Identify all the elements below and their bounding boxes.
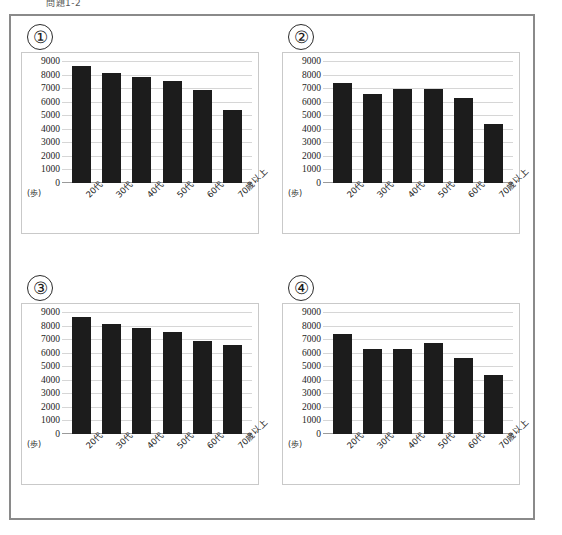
y-tick-label: 8000	[41, 70, 60, 80]
bar-60代[interactable]	[193, 341, 212, 434]
bar-series	[62, 61, 252, 183]
bar-40代[interactable]	[393, 89, 412, 183]
plot-wrapper: 9000800070006000500040003000200010000(歩)…	[22, 304, 258, 484]
x-label-slot: 30代	[363, 185, 382, 233]
y-tick-label: 4000	[41, 124, 60, 134]
y-axis-labels: 9000800070006000500040003000200010000	[24, 61, 60, 183]
y-tick-label: 2000	[302, 151, 321, 161]
y-tick-label: 7000	[41, 83, 60, 93]
y-tick-label: 2000	[41, 151, 60, 161]
x-label-slot: 50代	[424, 185, 443, 233]
y-tick-label: 2000	[41, 402, 60, 412]
plot-area	[62, 61, 252, 183]
bar-series	[62, 312, 252, 434]
y-tick-label: 4000	[41, 375, 60, 385]
bar-50代[interactable]	[424, 343, 443, 435]
plot-area	[323, 61, 513, 183]
bar-50代[interactable]	[163, 81, 182, 183]
bar-40代[interactable]	[132, 77, 151, 183]
x-label-slot: 20代	[72, 436, 91, 484]
y-tick-label: 8000	[302, 321, 321, 331]
x-label-slot: 20代	[333, 185, 352, 233]
bar-40代[interactable]	[132, 328, 151, 434]
bar-20代[interactable]	[72, 317, 91, 434]
x-label-slot: 30代	[102, 185, 121, 233]
x-axis-labels: 20代30代40代50代60代70歳以上	[323, 436, 513, 484]
x-label-slot: 70歳以上	[223, 185, 242, 233]
plot-area	[323, 312, 513, 434]
chart-grid: ①9000800070006000500040003000200010000(歩…	[11, 16, 533, 518]
bar-70歳以上[interactable]	[223, 110, 242, 183]
y-tick-label: 7000	[41, 334, 60, 344]
y-tick-label: 3000	[41, 388, 60, 398]
bar-60代[interactable]	[454, 358, 473, 434]
x-label-slot: 70歳以上	[223, 436, 242, 484]
bar-20代[interactable]	[333, 334, 352, 434]
chart-index-badge: ③	[27, 275, 53, 301]
y-axis-labels: 9000800070006000500040003000200010000	[24, 312, 60, 434]
bar-60代[interactable]	[193, 90, 212, 183]
bar-60代[interactable]	[454, 98, 473, 183]
bar-70歳以上[interactable]	[223, 345, 242, 434]
x-label-slot: 70歳以上	[484, 436, 503, 484]
bar-30代[interactable]	[102, 324, 121, 434]
x-axis-labels: 20代30代40代50代60代70歳以上	[62, 185, 252, 233]
y-axis-unit-label: (歩)	[27, 187, 41, 198]
x-label-slot: 40代	[393, 185, 412, 233]
bar-40代[interactable]	[393, 349, 412, 434]
plot-wrapper: 9000800070006000500040003000200010000(歩)…	[22, 53, 258, 233]
y-tick-label: 8000	[302, 70, 321, 80]
y-tick-label: 5000	[41, 110, 60, 120]
chart-panel-3[interactable]: 9000800070006000500040003000200010000(歩)…	[21, 303, 259, 485]
x-label-slot: 40代	[393, 436, 412, 484]
bar-50代[interactable]	[424, 89, 443, 183]
bar-50代[interactable]	[163, 332, 182, 434]
bar-30代[interactable]	[102, 73, 121, 183]
y-tick-label: 6000	[41, 97, 60, 107]
bar-30代[interactable]	[363, 94, 382, 183]
y-tick-label: 1000	[302, 164, 321, 174]
bar-30代[interactable]	[363, 349, 382, 434]
x-label-slot: 20代	[333, 436, 352, 484]
x-label-slot: 70歳以上	[484, 185, 503, 233]
chart-index-badge: ④	[288, 275, 314, 301]
bar-70歳以上[interactable]	[484, 124, 503, 183]
y-tick-label: 0	[316, 429, 321, 439]
chart-quadrant-4: ④9000800070006000500040003000200010000(歩…	[272, 267, 533, 518]
y-tick-label: 0	[55, 178, 60, 188]
y-tick-label: 9000	[41, 307, 60, 317]
plot-wrapper: 9000800070006000500040003000200010000(歩)…	[283, 304, 519, 484]
y-axis-unit-label: (歩)	[288, 187, 302, 198]
bar-20代[interactable]	[72, 66, 91, 183]
x-label-slot: 60代	[193, 185, 212, 233]
x-label-slot: 60代	[454, 436, 473, 484]
x-label-slot: 50代	[163, 436, 182, 484]
y-tick-label: 0	[316, 178, 321, 188]
chart-panel-4[interactable]: 9000800070006000500040003000200010000(歩)…	[282, 303, 520, 485]
y-tick-label: 0	[55, 429, 60, 439]
chart-index-badge: ②	[288, 24, 314, 50]
x-axis-labels: 20代30代40代50代60代70歳以上	[323, 185, 513, 233]
y-tick-label: 1000	[41, 164, 60, 174]
bar-70歳以上[interactable]	[484, 375, 503, 434]
x-label-slot: 20代	[72, 185, 91, 233]
y-axis-labels: 9000800070006000500040003000200010000	[285, 312, 321, 434]
x-label-slot: 30代	[363, 436, 382, 484]
x-label-slot: 50代	[424, 436, 443, 484]
x-label-slot: 40代	[132, 436, 151, 484]
y-tick-label: 5000	[41, 361, 60, 371]
y-tick-label: 2000	[302, 402, 321, 412]
y-tick-label: 7000	[302, 83, 321, 93]
chart-panel-2[interactable]: 9000800070006000500040003000200010000(歩)…	[282, 52, 520, 234]
y-tick-label: 1000	[41, 415, 60, 425]
bar-20代[interactable]	[333, 83, 352, 183]
chart-panel-1[interactable]: 9000800070006000500040003000200010000(歩)…	[21, 52, 259, 234]
y-tick-label: 9000	[302, 56, 321, 66]
bar-series	[323, 312, 513, 434]
y-axis-unit-label: (歩)	[27, 438, 41, 449]
chart-quadrant-2: ②9000800070006000500040003000200010000(歩…	[272, 16, 533, 267]
y-tick-label: 5000	[302, 361, 321, 371]
y-tick-label: 4000	[302, 375, 321, 385]
y-tick-label: 6000	[41, 348, 60, 358]
x-label-slot: 60代	[454, 185, 473, 233]
